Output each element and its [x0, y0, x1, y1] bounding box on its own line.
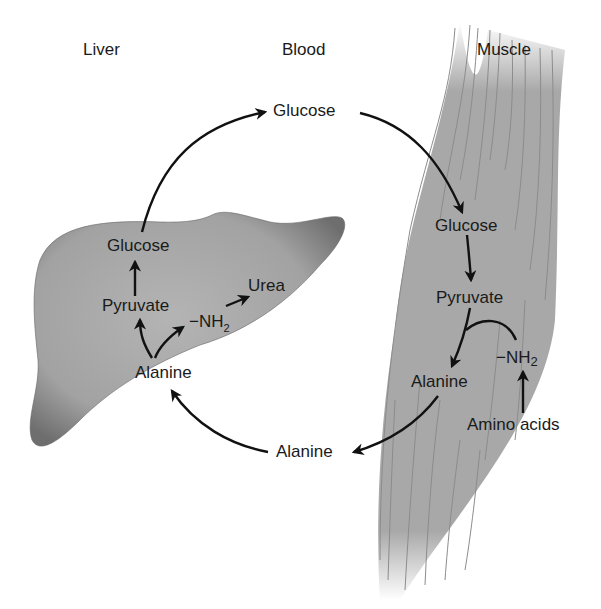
liver-amine-label: −NH2	[189, 312, 230, 333]
liver-amine-text: −NH	[189, 312, 223, 331]
blood-alanine-label: Alanine	[276, 442, 333, 462]
muscle-amine-subscript: 2	[530, 354, 537, 369]
muscle-pyruvate-label: Pyruvate	[436, 288, 503, 308]
blood-glucose-label: Glucose	[273, 101, 335, 121]
muscle-amine-text: −NH	[496, 348, 530, 367]
muscle-amine-label: −NH2	[496, 348, 538, 369]
muscle-glucose-label: Glucose	[435, 216, 497, 236]
column-label-muscle: Muscle	[477, 40, 531, 60]
liver-amine-subscript: 2	[223, 322, 229, 334]
liver-glucose-label: Glucose	[107, 236, 169, 256]
liver-alanine-label: Alanine	[135, 363, 192, 383]
muscle-shape	[378, 22, 565, 600]
column-label-liver: Liver	[83, 40, 120, 60]
muscle-alanine-label: Alanine	[411, 372, 468, 392]
muscle-amino-acids-label: Amino acids	[467, 415, 560, 435]
glucose-alanine-cycle-art	[0, 0, 601, 609]
column-label-blood: Blood	[282, 40, 325, 60]
arrow-blood-alanine-to-liver	[172, 391, 268, 452]
liver-urea-label: Urea	[248, 276, 285, 296]
liver-pyruvate-label: Pyruvate	[102, 296, 169, 316]
arrow-liver-glucose-to-blood	[142, 112, 265, 232]
